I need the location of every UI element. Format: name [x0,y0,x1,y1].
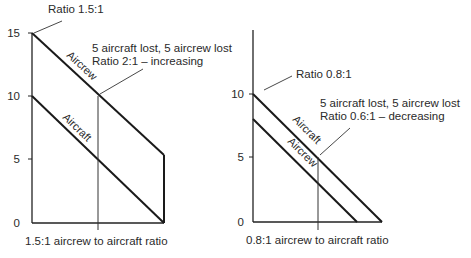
right-note-line1: 5 aircraft lost, 5 aircrew lost [320,97,461,109]
left-tick-10: 10 [7,90,20,102]
right-note-line2: Ratio 0.6:1 – decreasing [320,110,445,122]
right-tick-5: 5 [238,151,244,163]
left-start-label: Ratio 1.5:1 [48,3,104,15]
left-tick-5: 5 [14,153,20,165]
right-x-label: 0.8:1 aircrew to aircraft ratio [246,234,389,246]
left-tick-15: 15 [7,27,20,39]
right-start-label: Ratio 0.8:1 [296,68,352,80]
right-chart: 10 5 0 Ratio 0.8:1 5 aircraft lost, 5 ai… [231,30,461,246]
left-note-line1: 5 aircraft lost, 5 aircrew lost [92,42,233,54]
left-chart: 15 10 5 0 Ratio 1.5:1 5 aircraft lost, 5… [7,3,233,247]
right-tick-10: 10 [231,88,244,100]
left-tick-0: 0 [14,217,20,229]
right-tick-0: 0 [238,216,244,228]
left-x-label: 1.5:1 aircrew to aircraft ratio [25,235,168,247]
figure: 15 10 5 0 Ratio 1.5:1 5 aircraft lost, 5… [0,0,471,258]
left-note-line2: Ratio 2:1 – increasing [92,55,203,67]
